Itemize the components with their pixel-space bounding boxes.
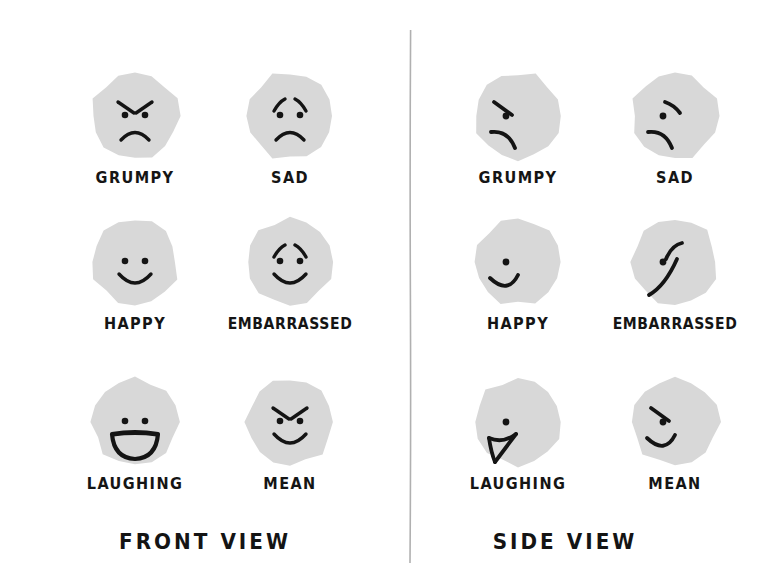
face-label-front-happy: HAPPY <box>60 314 210 332</box>
face-drawing-front-happy <box>85 212 185 312</box>
face-drawing-side-sad <box>625 66 725 166</box>
face-drawing-front-mean <box>240 372 340 472</box>
face-cell-front-embarrassed: EMBARRASSED <box>215 212 365 330</box>
face-cell-side-happy: HAPPY <box>443 212 593 330</box>
face-cell-side-laughing: LAUGHING <box>443 372 593 490</box>
front-view-panel: GRUMPY SAD HAPPY EMBARRASSED LAUGHING ME… <box>0 0 410 573</box>
face-drawing-front-sad <box>240 66 340 166</box>
face-drawing-side-laughing <box>468 372 568 472</box>
face-drawing-front-grumpy <box>85 66 185 166</box>
face-label-front-grumpy: GRUMPY <box>60 168 210 186</box>
face-label-side-mean: MEAN <box>600 474 750 492</box>
face-label-side-sad: SAD <box>600 168 750 186</box>
face-cell-front-grumpy: GRUMPY <box>60 66 210 184</box>
face-label-side-embarrassed: EMBARRASSED <box>600 314 750 332</box>
emotion-reference-sheet: GRUMPY SAD HAPPY EMBARRASSED LAUGHING ME… <box>0 0 765 573</box>
face-drawing-side-grumpy <box>468 66 568 166</box>
side-view-title: SIDE VIEW <box>415 528 715 554</box>
face-drawing-front-embarrassed <box>240 212 340 312</box>
face-cell-side-grumpy: GRUMPY <box>443 66 593 184</box>
face-drawing-side-happy <box>468 212 568 312</box>
face-cell-side-embarrassed: EMBARRASSED <box>600 212 750 330</box>
face-cell-front-laughing: LAUGHING <box>60 372 210 490</box>
face-label-side-grumpy: GRUMPY <box>443 168 593 186</box>
face-drawing-side-embarrassed <box>625 212 725 312</box>
face-label-front-mean: MEAN <box>215 474 365 492</box>
face-label-front-embarrassed: EMBARRASSED <box>215 314 365 332</box>
face-drawing-side-mean <box>625 372 725 472</box>
front-view-title: FRONT VIEW <box>55 528 355 554</box>
face-cell-front-happy: HAPPY <box>60 212 210 330</box>
face-label-front-sad: SAD <box>215 168 365 186</box>
face-label-side-laughing: LAUGHING <box>443 474 593 492</box>
face-label-front-laughing: LAUGHING <box>60 474 210 492</box>
face-label-side-happy: HAPPY <box>443 314 593 332</box>
face-cell-front-sad: SAD <box>215 66 365 184</box>
face-cell-front-mean: MEAN <box>215 372 365 490</box>
face-cell-side-mean: MEAN <box>600 372 750 490</box>
side-view-panel: GRUMPY SAD HAPPY EMBARRASSED LAUGHING ME… <box>410 0 765 573</box>
face-cell-side-sad: SAD <box>600 66 750 184</box>
face-drawing-front-laughing <box>85 372 185 472</box>
